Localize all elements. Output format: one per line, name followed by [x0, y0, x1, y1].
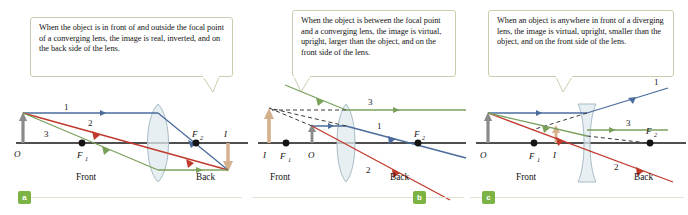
ray-label-2-a: 2 [88, 118, 93, 128]
ray-label-2-c: 2 [614, 162, 619, 172]
panel-b: When the object is between the focal poi… [250, 0, 468, 215]
ray1-refracted-c [587, 88, 668, 113]
ray1-arrowhead-in-c [536, 110, 542, 116]
ray2-b [312, 126, 450, 200]
focal-point-f2-b [415, 140, 422, 147]
label-back-a: Back [196, 172, 215, 182]
ray1-virtual-extension-c [532, 113, 587, 130]
label-f1-sub-a: 1 [85, 155, 88, 162]
ray1-virtual-extension-b [269, 108, 346, 126]
panel-a: When the object is in front of and outsi… [0, 0, 250, 215]
ray3-arrowhead-out-b [393, 107, 400, 113]
diagram-a: O F 1 F 2 I 1 2 3 Front Back [0, 0, 250, 215]
panel-c: When an object is anywhere in front of a… [468, 0, 688, 215]
ray-label-1-c: 1 [654, 77, 659, 87]
label-back-b: Back [390, 172, 409, 182]
label-f2-c: F [645, 126, 652, 136]
focal-point-f2-c [647, 140, 654, 147]
badge-c: c [482, 191, 495, 204]
label-f2-sub-c: 2 [654, 131, 657, 138]
ray-label-3-b: 3 [368, 97, 373, 107]
ray-label-1-b: 1 [377, 121, 382, 131]
focal-point-f2-a [193, 140, 200, 147]
label-image-b: I [262, 150, 267, 160]
ray1-arrowhead-in-a [100, 110, 106, 116]
badge-a: a [18, 191, 31, 204]
label-f1-b: F [279, 151, 286, 161]
label-front-c: Front [516, 172, 537, 182]
focal-point-f1-b [283, 140, 290, 147]
ray2-arrowhead-in-c [556, 137, 564, 146]
rule-c [470, 197, 684, 198]
label-back-c: Back [634, 172, 653, 182]
ray1-arrowhead-in-b [328, 123, 334, 129]
label-object-a: O [14, 149, 21, 159]
label-front-b: Front [270, 172, 291, 182]
label-image-c: I [552, 150, 557, 160]
label-object-b: O [308, 150, 315, 160]
ray3-incident-b [285, 85, 346, 110]
callout-a-tail [203, 77, 219, 92]
label-f2-a: F [191, 129, 198, 139]
ray3-virtual-extension-c [587, 136, 648, 143]
label-f1-c: F [528, 151, 535, 161]
rule-b [252, 197, 464, 198]
label-f2-b: F [413, 129, 420, 139]
label-f1-sub-c: 1 [537, 156, 540, 163]
label-front-a: Front [76, 172, 97, 182]
rule-a [22, 197, 242, 198]
focal-point-f1-a [79, 140, 86, 147]
callout-c-tail [556, 77, 572, 92]
badge-b: b [413, 191, 426, 204]
label-f1-sub-b: 1 [288, 156, 291, 163]
focal-point-f1-c [531, 140, 538, 147]
label-f2-sub-a: 2 [200, 134, 203, 141]
label-f2-sub-b: 2 [422, 134, 425, 141]
ray-label-3-c: 3 [626, 118, 631, 128]
ray-label-2-b: 2 [366, 165, 371, 175]
diagram-b: I F 1 O F 2 1 2 3 Front Back [250, 0, 468, 215]
label-f1-a: F [76, 150, 83, 160]
ray2-arrowhead-in-a [92, 131, 100, 140]
ray3-incident-c [488, 113, 587, 136]
ray-label-1-a: 1 [64, 102, 69, 112]
ray3-arrowhead-out-c [609, 127, 616, 133]
label-image-a: I [223, 129, 228, 139]
converging-lens-b [337, 104, 355, 182]
ray-label-3-a: 3 [44, 129, 49, 139]
diagram-c: O F 1 I F 2 1 2 3 Front Back [468, 0, 688, 215]
label-object-c: O [480, 150, 487, 160]
ray2-virtual-extension-b [269, 108, 312, 126]
